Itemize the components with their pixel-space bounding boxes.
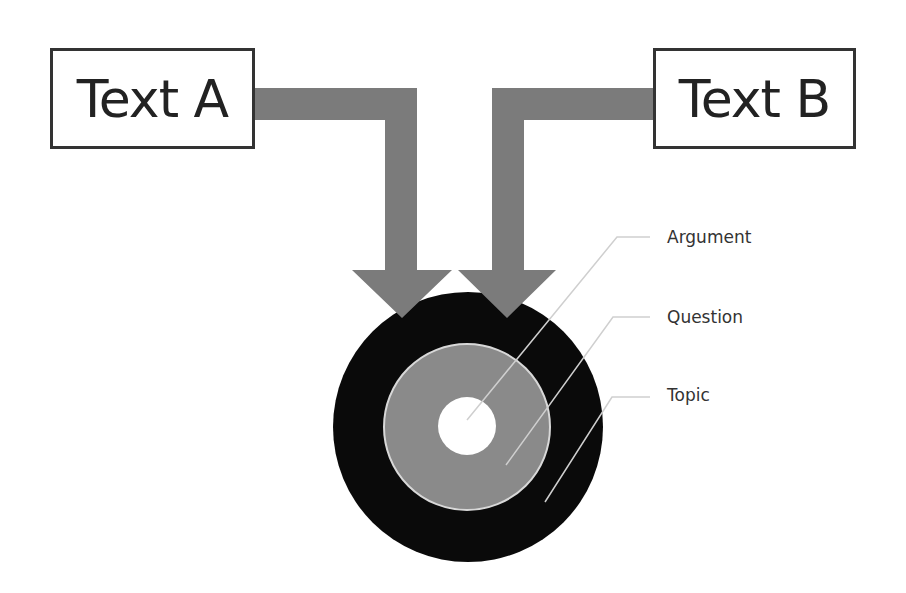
label-topic: Topic (667, 385, 710, 405)
arrow-from-text-b (458, 88, 655, 318)
text-a-label: Text A (77, 69, 228, 129)
label-argument: Argument (667, 227, 751, 247)
text-b-label: Text B (679, 69, 830, 129)
text-b-box: Text B (653, 48, 856, 149)
argument-ring (438, 397, 496, 455)
label-question: Question (667, 307, 743, 327)
arrow-from-text-a (253, 88, 452, 318)
text-a-box: Text A (50, 48, 255, 149)
